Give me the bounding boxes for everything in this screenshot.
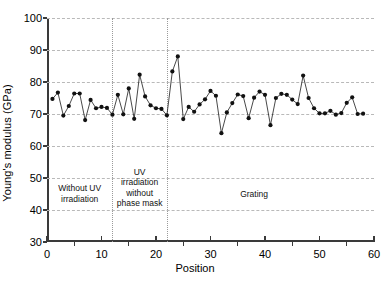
data-point xyxy=(127,86,131,90)
data-point xyxy=(159,107,163,111)
y-tick-label-40: 40 xyxy=(30,204,42,216)
data-point xyxy=(154,106,158,110)
data-point xyxy=(274,96,278,100)
data-point xyxy=(290,98,294,102)
data-point xyxy=(143,94,147,98)
data-point xyxy=(252,96,256,100)
data-point xyxy=(61,114,65,118)
data-series-line xyxy=(47,18,374,242)
data-point xyxy=(339,111,343,115)
x-minor-tick-5 xyxy=(74,242,75,246)
x-tick-label-60: 60 xyxy=(368,248,380,260)
y-axis-title: Young's modulus (GPa) xyxy=(0,0,16,286)
data-point xyxy=(181,117,185,121)
y-tick-label-100: 100 xyxy=(24,12,42,24)
x-tick-label-40: 40 xyxy=(259,248,271,260)
data-point xyxy=(279,92,283,96)
data-point xyxy=(67,104,71,108)
data-point xyxy=(350,95,354,99)
data-point xyxy=(56,90,60,94)
x-minor-tick-25 xyxy=(183,242,184,246)
data-point xyxy=(328,109,332,113)
x-minor-tick-35 xyxy=(237,242,238,246)
data-point xyxy=(72,91,76,95)
y-tick-label-30: 30 xyxy=(30,236,42,248)
data-point xyxy=(285,93,289,97)
data-point xyxy=(132,117,136,121)
data-point xyxy=(99,105,103,109)
data-point xyxy=(110,113,114,117)
data-point xyxy=(208,89,212,93)
x-minor-tick-55 xyxy=(346,242,347,246)
data-point xyxy=(214,94,218,98)
data-point xyxy=(230,101,234,105)
x-minor-tick-15 xyxy=(128,242,129,246)
data-point xyxy=(236,92,240,96)
x-tick-label-30: 30 xyxy=(204,248,216,260)
data-point xyxy=(356,112,360,116)
y-tick-label-80: 80 xyxy=(30,76,42,88)
data-point xyxy=(138,73,142,77)
plot-area: 30405060708090100 0102030405060 Without … xyxy=(47,18,374,242)
x-tick-label-20: 20 xyxy=(150,248,162,260)
data-point xyxy=(116,93,120,97)
data-point xyxy=(247,116,251,120)
data-point xyxy=(89,98,93,102)
data-point xyxy=(105,106,109,110)
data-point xyxy=(121,112,125,116)
data-point xyxy=(165,113,169,117)
x-tick-label-10: 10 xyxy=(95,248,107,260)
x-minor-tick-45 xyxy=(292,242,293,246)
data-point xyxy=(176,54,180,58)
data-point xyxy=(307,96,311,100)
data-point xyxy=(198,102,202,106)
x-axis-title: Position xyxy=(0,262,390,274)
data-point xyxy=(170,69,174,73)
data-point xyxy=(334,113,338,117)
data-point xyxy=(312,106,316,110)
data-point xyxy=(268,123,272,127)
data-point xyxy=(50,97,54,101)
data-point xyxy=(203,97,207,101)
data-point xyxy=(225,110,229,114)
data-point xyxy=(83,118,87,122)
data-point xyxy=(323,111,327,115)
y-tick-label-90: 90 xyxy=(30,44,42,56)
data-point xyxy=(94,106,98,110)
data-point xyxy=(192,110,196,114)
data-point xyxy=(361,112,365,116)
data-point xyxy=(241,94,245,98)
x-tick-label-0: 0 xyxy=(44,248,50,260)
y-tick-label-70: 70 xyxy=(30,108,42,120)
data-point xyxy=(296,102,300,106)
x-tick-label-50: 50 xyxy=(313,248,325,260)
y-tick-label-60: 60 xyxy=(30,140,42,152)
data-point xyxy=(263,93,267,97)
data-point xyxy=(219,131,223,135)
data-point xyxy=(301,74,305,78)
y-tick-label-50: 50 xyxy=(30,172,42,184)
data-point xyxy=(317,111,321,115)
data-point xyxy=(257,90,261,94)
data-point xyxy=(78,91,82,95)
chart-container: Young's modulus (GPa) 30405060708090100 … xyxy=(0,0,390,286)
data-point xyxy=(187,105,191,109)
data-point xyxy=(148,103,152,107)
data-point xyxy=(345,101,349,105)
